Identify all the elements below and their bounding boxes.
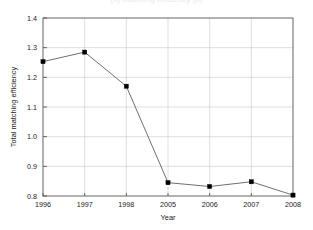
chart-figure: 0.80.91.01.11.21.31.4 199619971998200520… [0,0,313,230]
x-tick-label: 2005 [160,200,176,209]
x-tick-label: 1997 [77,200,93,209]
y-tick-label: 0.9 [27,162,37,171]
data-point-marker [124,84,128,88]
data-point-marker [166,181,170,185]
data-point-marker [208,184,212,188]
y-tick-label: 1.1 [27,103,37,112]
y-tick-label: 1.0 [27,132,37,141]
x-tick-label: 2007 [243,200,259,209]
x-axis-tick-labels: 1996199719982005200620072008 [35,200,301,209]
x-tick-label: 2008 [285,200,301,209]
x-tick-label: 1996 [35,200,51,209]
x-tick-label: 1998 [118,200,134,209]
y-tick-label: 1.3 [27,43,37,52]
y-axis-tick-labels: 0.80.91.01.11.21.31.4 [27,14,37,201]
x-tick-label: 2006 [202,200,218,209]
x-axis-title: Year [161,213,176,222]
data-point-marker [83,50,87,54]
gridlines-group [43,18,293,196]
data-point-marker [41,60,45,64]
data-point-marker [291,193,295,197]
y-axis-title: Total matching efficiency [9,67,18,148]
data-point-marker [249,180,253,184]
line-chart-svg: 0.80.91.01.11.21.31.4 199619971998200520… [0,0,313,230]
y-tick-label: 1.2 [27,73,37,82]
y-tick-label: 1.4 [27,14,37,23]
